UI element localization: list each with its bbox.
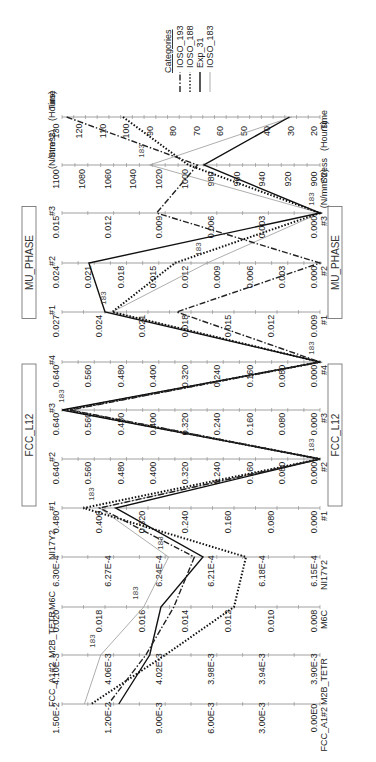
tick-label: 0.000 (309, 462, 319, 485)
tick-label: 1.20E-2 (103, 702, 113, 734)
group-label-mu-phase: MU_PHASE (328, 207, 342, 319)
tick-label: 60 (215, 126, 225, 136)
annotation-183: 183 (88, 634, 97, 648)
tick-label: 0.640 (51, 413, 61, 436)
axis-name: #3 (319, 413, 329, 423)
group-label-fcc-l12: FCC_L12 (328, 364, 342, 506)
tick-label: 0.006 (206, 216, 216, 239)
tick-label: 3.98E-3 (206, 653, 216, 685)
annotation-183: 183 (99, 291, 108, 305)
tick-label: 980 (206, 171, 216, 186)
axis-fcca1: 1.50E-21.20E-29.00E-36.00E-33.00E-30.00E… (47, 662, 329, 751)
axis-mu1: 0.0270.0240.0210.0180.0150.0120.009#1#1 (47, 305, 329, 337)
tick-label: 0.010 (266, 610, 276, 633)
tick-label: 0.240 (180, 511, 190, 534)
tick-label: 0.080 (266, 511, 276, 534)
tick-label: 0.015 (51, 216, 61, 239)
tick-label: 1060 (103, 169, 113, 189)
legend-item-IOSO_193: IOSO_193 (175, 25, 185, 92)
axis-name: #1 (319, 511, 329, 521)
axis-time: 1301201101009080706050403020Time(Hours)T… (47, 90, 329, 151)
tick-label: 0.024 (94, 315, 104, 338)
axis-name: M6C (47, 590, 57, 610)
tick-label: 1100 (51, 169, 61, 188)
annotations: 183183183183183183183183183183183 (57, 144, 316, 648)
axis-name: #2 (319, 462, 329, 472)
tick-label: 0.009 (212, 266, 222, 289)
axis-name: (Hours) (319, 121, 329, 151)
tick-label: 0.000 (309, 266, 319, 289)
tick-label: 0.021 (83, 266, 93, 289)
tick-label: 0.160 (223, 511, 233, 534)
tick-label: 0.008 (309, 610, 319, 633)
annotation-183: 183 (87, 487, 96, 501)
axis-name: #1 (47, 305, 57, 315)
tick-label: 1040 (128, 169, 138, 189)
axis-fcc1: 0.4800.4000.3200.2400.1600.0800.000#1#1 (47, 501, 329, 533)
axis-name: (N/mm^2) (319, 169, 329, 208)
axis-mu2: 0.0240.0210.0180.0150.0120.0090.0060.003… (47, 256, 329, 288)
annotation-183: 183 (194, 242, 203, 256)
tick-label: 0.000 (309, 511, 319, 534)
tick-label: 0.000 (309, 216, 319, 239)
legend: CategoriesIOSO_193IOSO_188Exp_31IOSO_183 (163, 25, 215, 92)
tick-label: 0.400 (148, 413, 158, 436)
axis-name: #2 (319, 266, 329, 276)
tick-label: 9.00E-3 (154, 702, 164, 734)
tick-label: 6.18E-4 (257, 555, 267, 587)
tick-label: 3.00E-3 (257, 702, 267, 734)
tick-label: 0.009 (309, 315, 319, 338)
series-line-IOSO_193 (67, 117, 320, 704)
axis-fcc4: 0.6400.5600.4800.4000.3200.2400.1600.080… (47, 355, 329, 387)
tick-label: 4.02E-3 (154, 653, 164, 685)
annotation-183: 183 (131, 586, 140, 600)
legend-item-Exp_31: Exp_31 (195, 37, 205, 92)
tick-label: 0.018 (94, 610, 104, 633)
tick-label: 0.012 (223, 610, 233, 633)
tick-label: 0.480 (116, 413, 126, 436)
axis-name: #3 (47, 403, 57, 413)
annotation-183: 183 (307, 438, 316, 452)
tick-label: 0.000 (309, 413, 319, 436)
svg-text:IOSO_188: IOSO_188 (185, 25, 195, 68)
tick-label: 900 (309, 171, 319, 186)
svg-text:FCC_L12: FCC_L12 (330, 413, 341, 456)
svg-text:FCC_L12: FCC_L12 (24, 413, 35, 456)
axis-stress: 110010801060104010201000980960940920900S… (47, 130, 329, 208)
tick-label: 0.560 (83, 462, 93, 485)
tick-label: 0.320 (180, 365, 190, 388)
annotation-183: 183 (307, 341, 316, 355)
tick-label: 0.640 (51, 462, 61, 485)
annotation-183: 183 (57, 389, 66, 403)
series-line-IOSO_188 (66, 117, 320, 704)
axis-name: #1 (47, 501, 57, 511)
axis-name: (N/mm^2) (47, 130, 57, 169)
tick-label: 3.90E-3 (309, 653, 319, 685)
tick-label: 0.000 (309, 365, 319, 388)
axis-name: #4 (47, 355, 57, 365)
tick-label: 0.018 (116, 266, 126, 289)
tick-label: 0.012 (103, 216, 113, 239)
svg-text:IOSO_183: IOSO_183 (205, 25, 215, 68)
axis-name: (Hours) (47, 91, 57, 121)
axis-name: M2B_TETR (319, 658, 329, 706)
tick-label: 80 (168, 126, 178, 136)
axis-name: #1 (319, 315, 329, 325)
axis-name: M6C (319, 610, 329, 630)
tick-label: 1020 (154, 169, 164, 189)
tick-label: 0.00E0 (309, 704, 319, 733)
tick-label: 0.160 (245, 413, 255, 436)
tick-label: 0.015 (148, 266, 158, 289)
tick-label: 6.21E-4 (206, 555, 216, 587)
group-label-mu-phase: MU_PHASE (22, 207, 36, 319)
group-label-fcc-l12: FCC_L12 (22, 364, 36, 506)
tick-label: 90 (145, 126, 155, 136)
axis-fcc3: 0.6400.5600.4800.4000.3200.2400.1600.080… (47, 403, 329, 435)
svg-text:IOSO_193: IOSO_193 (175, 25, 185, 68)
axis-name: NI17Y2 (319, 560, 329, 590)
tick-label: 0.003 (257, 216, 267, 239)
tick-label: 0.080 (277, 413, 287, 436)
series-line-IOSO_183 (70, 117, 320, 704)
tick-label: 0.015 (223, 315, 233, 338)
annotation-183: 183 (307, 192, 316, 206)
